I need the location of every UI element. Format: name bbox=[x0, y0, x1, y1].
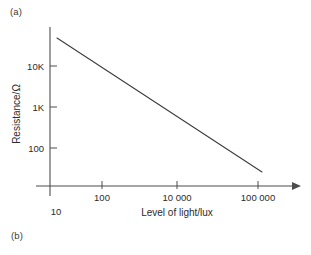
figure-container: (a) 10K 1K 100 10 100 10 000 100 000 Lev… bbox=[0, 0, 311, 255]
series-ldr-resistance-line bbox=[57, 38, 262, 172]
x-axis-title: Level of light/lux bbox=[141, 207, 213, 218]
x-tick-label-10: 10 bbox=[51, 206, 62, 217]
x-tick-label-10000: 10 000 bbox=[162, 192, 191, 203]
y-tick-label-1k: 1K bbox=[20, 102, 44, 113]
y-tick-label-100: 100 bbox=[20, 143, 44, 154]
panel-label-b: (b) bbox=[11, 230, 23, 241]
y-tick-label-10k: 10K bbox=[20, 61, 44, 72]
x-tick-label-100: 100 bbox=[94, 192, 110, 203]
y-axis-title: Resistance/Ω bbox=[11, 84, 22, 144]
x-tick-label-100000: 100 000 bbox=[241, 192, 275, 203]
x-axis-arrow-icon bbox=[292, 182, 301, 190]
